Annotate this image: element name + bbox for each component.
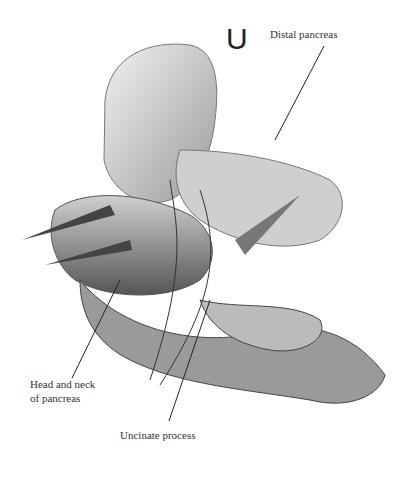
panel-letter: U [226, 22, 248, 56]
label-distal-pancreas: Distal pancreas [270, 28, 338, 41]
label-head-neck-line2: of pancreas [30, 392, 80, 405]
label-uncinate-process: Uncinate process [120, 429, 195, 442]
surgical-illustration [0, 0, 394, 491]
label-head-neck-line1: Head and neck [30, 378, 95, 391]
